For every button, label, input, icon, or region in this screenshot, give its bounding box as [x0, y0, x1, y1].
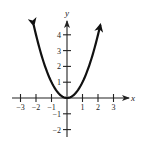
x-tick-label: 2	[96, 103, 100, 112]
x-axis-label: x	[130, 93, 135, 103]
x-tick-label: −2	[32, 103, 41, 112]
x-tick-label: −3	[16, 103, 25, 112]
plot-area: −3−2−1123−2−11234 x y	[0, 0, 143, 141]
x-tick-label: 3	[112, 103, 116, 112]
y-tick-label: −2	[52, 126, 61, 135]
y-tick-label: 4	[57, 31, 61, 40]
y-tick-label: 3	[57, 47, 61, 56]
y-tick-label: 1	[57, 78, 61, 87]
axes	[12, 21, 129, 137]
y-axis-label: y	[64, 8, 69, 18]
x-tick-label: 1	[81, 103, 85, 112]
parabola-chart: −3−2−1123−2−11234 x y	[0, 0, 143, 141]
y-tick-label: 2	[57, 62, 61, 71]
y-tick-label: −1	[52, 110, 61, 119]
